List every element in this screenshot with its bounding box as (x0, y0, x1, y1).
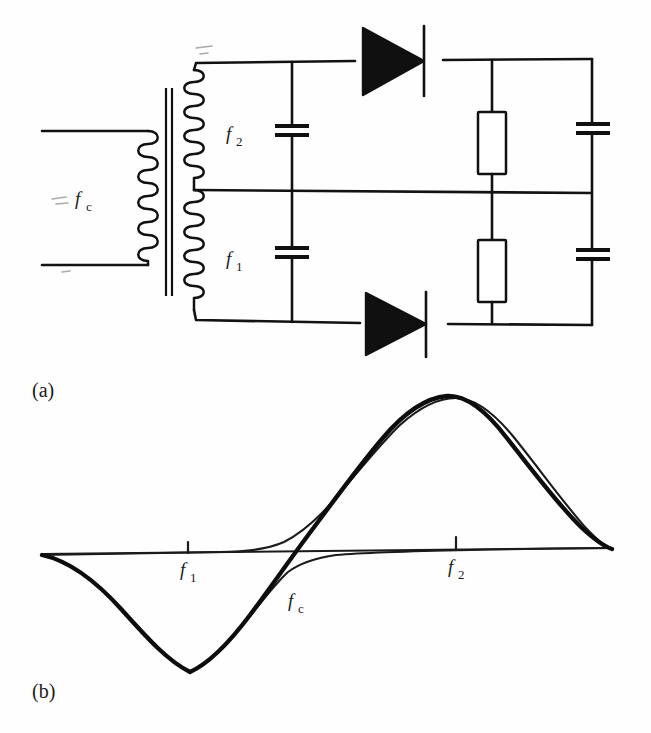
curve-composite-s (42, 396, 612, 672)
lower-secondary-winding (184, 190, 204, 310)
circuit-svg: f c f 2 f 1 (0, 0, 651, 375)
capacitor-c1 (275, 192, 309, 322)
upper-tank-label-text: f (226, 123, 234, 144)
caption-b-wrap: (b) (30, 674, 100, 708)
circuit-panel: f c f 2 f 1 (0, 0, 651, 375)
diode-d1 (363, 26, 424, 96)
input-frequency-label-text: f (75, 188, 83, 209)
upper-tank-label: f 2 (226, 123, 243, 149)
capacitor-cf2 (576, 194, 610, 325)
axis-label-f2-text: f (448, 556, 456, 577)
axis-label-f1: f 1 (180, 559, 197, 585)
axis-label-f2: f 2 (448, 556, 465, 582)
axis-label-f2-sub: 2 (458, 567, 465, 582)
axis-label-f1-sub: 1 (190, 570, 197, 585)
lower-tank-label: f 1 (226, 248, 243, 274)
capacitor-cf1 (576, 59, 610, 192)
capacitor-c2 (275, 62, 309, 191)
axis-label-fc-sub: c (298, 601, 304, 616)
center-tap-rail (194, 190, 592, 193)
axis-label-fc: f c (288, 590, 304, 616)
input-frequency-label: f c (52, 188, 92, 272)
upper-secondary-winding (184, 70, 204, 190)
upper-tank-label-sub: 2 (236, 134, 243, 149)
resistor-r2 (478, 193, 506, 324)
transformer-core (166, 88, 172, 296)
diode-d2 (366, 292, 426, 357)
input-frequency-label-sub: c (86, 199, 92, 214)
caption-b: (b) (32, 680, 55, 703)
paper-smudge (196, 46, 212, 54)
lower-tank-label-text: f (226, 248, 234, 269)
figure-root: f c f 2 f 1 (a) (0, 0, 651, 733)
curve-lower-tuned-response (42, 548, 612, 672)
resistor-r1 (478, 60, 506, 192)
axis-label-f1-text: f (180, 559, 188, 580)
axis-label-fc-text: f (288, 590, 296, 611)
curve-upper-tuned-response (42, 398, 612, 555)
primary-winding (138, 131, 158, 265)
lower-tank-label-sub: 1 (236, 259, 243, 274)
